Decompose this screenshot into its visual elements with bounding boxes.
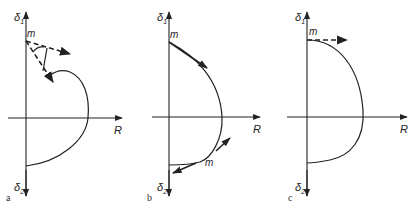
trajectory-curve <box>307 40 363 163</box>
panel-c-caption: c <box>288 192 293 203</box>
panel-a: m δ1 δ2 R a <box>6 11 122 203</box>
point-m-bottom-label: m <box>205 157 213 168</box>
panel-b: m m δ1 δ2 R b <box>147 11 261 203</box>
panel-a-caption: a <box>6 192 11 203</box>
point-m-label: m <box>309 26 317 37</box>
point-m-top-label: m <box>170 29 178 40</box>
figure-canvas: m δ1 δ2 R a m m δ1 δ2 R b m δ1 δ2 R c <box>0 0 414 212</box>
delta2-label: δ2 <box>157 181 167 195</box>
panel-c: m δ1 δ2 R c <box>287 11 408 203</box>
point-m-label: m <box>27 28 35 39</box>
tangent-arrow-top <box>169 42 207 68</box>
r-axis-label: R <box>253 123 261 135</box>
delta2-label: δ2 <box>14 181 24 195</box>
tangent-segment <box>43 48 47 71</box>
delta1-label: δ1 <box>157 11 167 25</box>
delta1-label: δ1 <box>14 11 24 25</box>
angle-arc <box>33 47 44 52</box>
delta2-label: δ2 <box>295 181 305 195</box>
panel-b-caption: b <box>147 192 152 203</box>
r-axis-label: R <box>114 124 122 136</box>
r-axis-label: R <box>400 123 408 135</box>
delta1-label: δ1 <box>295 11 305 25</box>
